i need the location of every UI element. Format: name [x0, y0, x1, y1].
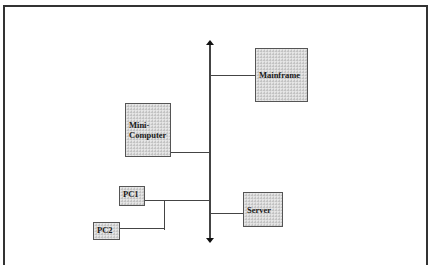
- backbone-line: [209, 44, 211, 239]
- pc2-node: PC2: [93, 222, 120, 240]
- minicomputer-label: Mini- Computer: [126, 120, 166, 140]
- pc1-label: PC1: [120, 189, 139, 199]
- pc1-connector: [145, 200, 210, 201]
- mainframe-connector: [210, 75, 256, 76]
- mainframe-label: Mainframe: [256, 70, 300, 80]
- pc2-connector: [120, 228, 165, 229]
- backbone-arrow-down-icon: [206, 238, 214, 243]
- server-label: Server: [244, 205, 271, 215]
- minicomputer-node: Mini- Computer: [125, 103, 171, 157]
- server-connector: [210, 213, 243, 214]
- pc-branch-line: [164, 200, 165, 230]
- mainframe-node: Mainframe: [255, 48, 308, 102]
- pc2-label: PC2: [94, 225, 113, 235]
- server-node: Server: [243, 192, 283, 227]
- diagram-frame: [3, 5, 428, 265]
- pc1-node: PC1: [119, 186, 145, 206]
- minicomputer-connector: [171, 152, 210, 153]
- backbone-arrow-up-icon: [206, 40, 214, 45]
